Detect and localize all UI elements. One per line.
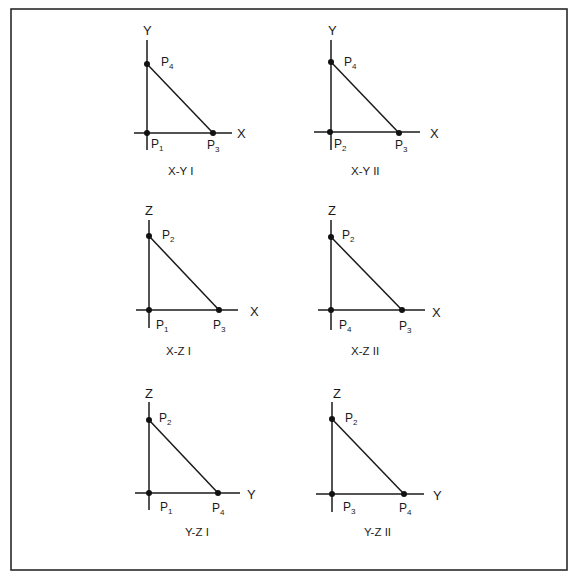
origin-point-marker (327, 129, 333, 135)
vertical-axis-label: Z (333, 386, 341, 401)
horizontal-axis-label: X (250, 304, 259, 319)
vertical-axis-label: Z (145, 386, 153, 401)
origin-point-marker (329, 491, 335, 497)
right-point-marker (215, 490, 221, 496)
right-point-marker (396, 130, 402, 136)
hypotenuse-edge (149, 420, 218, 493)
top-point-label: P2 (162, 228, 175, 244)
panel-yz2: Z Y P2 P3 P4 Y-Z II (316, 386, 442, 538)
figure-frame (11, 9, 567, 570)
origin-point-marker (144, 130, 150, 136)
horizontal-axis-label: X (237, 126, 246, 141)
top-point-marker (146, 233, 152, 239)
hypotenuse-edge (331, 237, 402, 310)
top-point-label: P4 (344, 55, 357, 71)
origin-point-label: P4 (339, 318, 352, 334)
panel-xy1: Y X P4 P1 P3 X-Y I (134, 23, 246, 177)
horizontal-axis-label: X (430, 126, 439, 141)
horizontal-axis-label: X (432, 305, 441, 320)
top-point-marker (328, 234, 334, 240)
right-point-marker (216, 307, 222, 313)
right-point-marker (399, 307, 405, 313)
right-point-marker (210, 130, 216, 136)
vertical-axis-label: Z (145, 203, 153, 218)
right-point-label: P3 (207, 138, 220, 154)
panel-xy2: Y X P4 P2 P3 X-Y II (314, 23, 439, 177)
panel-caption: Y-Z II (364, 526, 391, 538)
panel-caption: X-Z II (351, 345, 379, 357)
panel-xz2: Z X P2 P4 P3 X-Z II (318, 203, 441, 357)
origin-point-label: P1 (156, 318, 169, 334)
top-point-marker (329, 416, 335, 422)
hypotenuse-edge (149, 236, 219, 310)
hypotenuse-edge (331, 62, 399, 133)
vertical-axis-label: Y (328, 23, 337, 38)
top-point-marker (144, 61, 150, 67)
hypotenuse-edge (332, 419, 404, 494)
right-point-label: P4 (212, 501, 225, 517)
origin-point-label: P3 (343, 500, 356, 516)
top-point-label: P4 (161, 55, 174, 71)
origin-point-marker (146, 490, 152, 496)
top-point-label: P2 (342, 228, 355, 244)
panel-caption: X-Y I (168, 165, 193, 177)
vertical-axis-label: Z (328, 203, 336, 218)
right-point-marker (401, 491, 407, 497)
top-point-marker (328, 59, 334, 65)
origin-point-marker (328, 307, 334, 313)
origin-point-label: P2 (334, 137, 347, 153)
panel-xz1: Z X P2 P1 P3 X-Z I (136, 203, 259, 357)
horizontal-axis-label: Y (433, 488, 442, 503)
origin-point-label: P1 (160, 500, 173, 516)
panel-yz1: Z Y P2 P1 P4 Y-Z I (135, 386, 256, 538)
panel-caption: X-Y II (351, 165, 380, 177)
right-point-label: P3 (395, 138, 408, 154)
right-point-label: P3 (213, 318, 226, 334)
projection-diagram: Y X P4 P1 P3 X-Y I Y X P4 P2 P3 X-Y II Z… (0, 0, 573, 576)
horizontal-axis-label: Y (247, 487, 256, 502)
right-point-label: P4 (399, 501, 412, 517)
top-point-label: P2 (159, 411, 172, 427)
right-point-label: P3 (399, 319, 412, 335)
hypotenuse-edge (147, 64, 213, 133)
origin-point-marker (146, 307, 152, 313)
top-point-label: P2 (345, 411, 358, 427)
panel-caption: Y-Z I (185, 526, 209, 538)
origin-point-label: P1 (151, 137, 164, 153)
vertical-axis-label: Y (143, 23, 152, 38)
top-point-marker (146, 417, 152, 423)
panel-caption: X-Z I (166, 345, 191, 357)
